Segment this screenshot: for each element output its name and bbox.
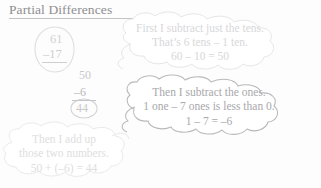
page-title: Partial Differences [9,2,159,17]
ones-step-bubble-text: Then I subtract the ones. 1 one – 7 ones… [110,85,308,128]
tens-step-bubble-text: First I subtract just the tens. That’s 6… [105,21,295,64]
sum-step-line-1: Then I add up [3,132,125,146]
subtraction-bar-top [42,62,67,63]
ones-step-line-1: Then I subtract the ones. [110,85,308,99]
title-block: Partial Differences [9,2,159,19]
tens-step-line-1: First I subtract just the tens. [105,21,295,35]
partial-ones-minus-6: –6 [74,85,86,100]
ones-step-line-3: 1 – 7 = –6 [110,114,308,128]
tens-step-line-3: 60 – 10 = 50 [105,49,295,63]
worksheet-page: Partial Differences [0,0,321,188]
final-answer-44: 44 [76,101,88,116]
tens-step-line-2: That’s 6 tens – 1 ten. [105,35,295,49]
subtrahend-minus-17: –17 [43,47,62,62]
sum-step-bubble-text: Then I add up those two numbers. 50 + (–… [3,132,125,175]
title-underline [9,18,136,19]
partial-tens-50: 50 [79,68,91,83]
ones-step-line-2: 1 one – 7 ones is less than 0. [110,99,308,113]
sum-step-line-3: 50 + (–6) = 44 [3,161,125,175]
minuend-61: 61 [50,32,63,47]
sum-step-line-2: those two numbers. [3,146,125,160]
